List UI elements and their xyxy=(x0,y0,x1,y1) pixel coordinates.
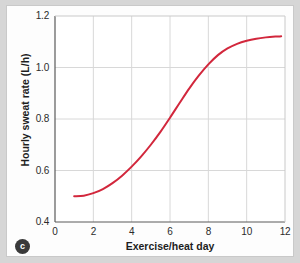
y-axis-title: Hourly sweat rate (L/h) xyxy=(19,30,31,190)
x-tick-label: 10 xyxy=(237,226,257,237)
x-tick-label: 0 xyxy=(45,226,65,237)
figure-container: 0.40.60.81.01.2 024681012 Hourly sweat r… xyxy=(0,0,300,263)
x-axis-title: Exercise/heat day xyxy=(55,240,285,252)
plot-area-wrapper: 0.40.60.81.01.2 024681012 Hourly sweat r… xyxy=(0,0,300,263)
x-tick-label: 6 xyxy=(160,226,180,237)
x-tick-label: 2 xyxy=(83,226,103,237)
x-tick-label: 12 xyxy=(275,226,295,237)
x-tick-label: 8 xyxy=(198,226,218,237)
panel-label-badge: c xyxy=(15,239,30,254)
y-tick-label: 1.2 xyxy=(23,10,49,21)
x-tick-label: 4 xyxy=(122,226,142,237)
